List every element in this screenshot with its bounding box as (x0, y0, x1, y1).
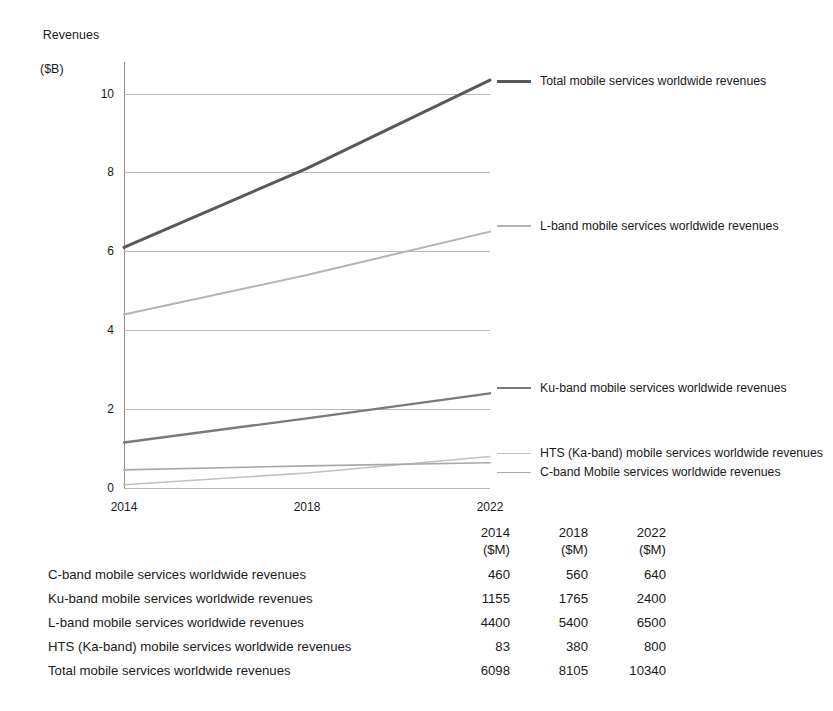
table-cell-value: 2400 (588, 587, 666, 611)
series-line (124, 232, 490, 315)
table-column-unit: ($M) (510, 541, 588, 558)
legend-swatch-icon (497, 453, 531, 454)
table-column-year: 2014 (481, 525, 510, 540)
x-axis-tick-label: 2022 (477, 500, 504, 514)
figure-caption (0, 699, 833, 711)
table-cell-value: 800 (588, 635, 666, 659)
legend-item: HTS (Ka-band) mobile services worldwide … (497, 446, 823, 460)
legend-label: Ku-band mobile services worldwide revenu… (540, 381, 787, 395)
y-axis-title: Revenues ($B) (22, 10, 99, 112)
chart-page: Revenues ($B) 0246810 201420182022 Total… (0, 0, 833, 711)
y-axis-tick-label: 0 (107, 481, 114, 495)
table-body: C-band mobile services worldwide revenue… (48, 563, 666, 683)
legend-swatch-icon (497, 225, 531, 227)
table-cell-value: 5400 (510, 611, 588, 635)
series-line (124, 456, 490, 484)
legend-item: L-band mobile services worldwide revenue… (497, 219, 779, 233)
table-column-header: 2018($M) (510, 524, 588, 563)
legend-swatch-icon (497, 80, 531, 83)
series-line (124, 80, 490, 247)
y-axis-tick-label: 10 (101, 87, 114, 101)
table-row-label: Total mobile services worldwide revenues (48, 659, 432, 683)
table-cell-value: 560 (510, 563, 588, 587)
table-row-label: Ku-band mobile services worldwide revenu… (48, 587, 432, 611)
table-row: Ku-band mobile services worldwide revenu… (48, 587, 666, 611)
y-axis-tick-label: 2 (107, 402, 114, 416)
line-chart: Revenues ($B) 0246810 201420182022 Total… (0, 0, 833, 515)
y-axis-tick-label: 8 (107, 165, 114, 179)
table-cell-value: 1765 (510, 587, 588, 611)
table-row: C-band mobile services worldwide revenue… (48, 563, 666, 587)
revenue-table: 2014($M)2018($M)2022($M) C-band mobile s… (48, 524, 666, 683)
table-column-year: 2022 (637, 525, 666, 540)
table-row: Total mobile services worldwide revenues… (48, 659, 666, 683)
table-column-unit: ($M) (432, 541, 510, 558)
legend-label: HTS (Ka-band) mobile services worldwide … (540, 446, 823, 460)
x-axis-tick-label: 2014 (111, 500, 138, 514)
table-row-label: HTS (Ka-band) mobile services worldwide … (48, 635, 432, 659)
gridline (124, 488, 490, 489)
table-cell-value: 640 (588, 563, 666, 587)
table-column-year: 2018 (559, 525, 588, 540)
table-cell-value: 380 (510, 635, 588, 659)
table-cell-value: 1155 (432, 587, 510, 611)
table-cell-value: 83 (432, 635, 510, 659)
y-axis-title-unit: ($B) (22, 61, 99, 78)
table-cell-value: 10340 (588, 659, 666, 683)
table-cell-value: 6500 (588, 611, 666, 635)
legend-swatch-icon (497, 472, 531, 473)
table-cell-value: 460 (432, 563, 510, 587)
x-axis-tick-label: 2018 (294, 500, 321, 514)
series-lines (124, 62, 490, 488)
y-axis-tick-label: 6 (107, 244, 114, 258)
y-axis-tick-label: 4 (107, 323, 114, 337)
legend-item: C-band Mobile services worldwide revenue… (497, 465, 781, 479)
table-column-unit: ($M) (588, 541, 666, 558)
series-line (124, 393, 490, 442)
table-cell-value: 8105 (510, 659, 588, 683)
legend-item: Ku-band mobile services worldwide revenu… (497, 381, 787, 395)
row-label-header (48, 524, 432, 563)
table-cell-value: 6098 (432, 659, 510, 683)
table-row-label: L-band mobile services worldwide revenue… (48, 611, 432, 635)
legend-label: C-band Mobile services worldwide revenue… (540, 465, 781, 479)
legend-item: Total mobile services worldwide revenues (497, 74, 766, 88)
legend-label: Total mobile services worldwide revenues (540, 74, 766, 88)
data-table-wrap: 2014($M)2018($M)2022($M) C-band mobile s… (0, 524, 833, 683)
legend-label: L-band mobile services worldwide revenue… (540, 219, 779, 233)
table-row-label: C-band mobile services worldwide revenue… (48, 563, 432, 587)
table-row: L-band mobile services worldwide revenue… (48, 611, 666, 635)
table-column-header: 2014($M) (432, 524, 510, 563)
legend-swatch-icon (497, 387, 531, 389)
y-axis-title-main: Revenues (43, 28, 99, 42)
table-row: HTS (Ka-band) mobile services worldwide … (48, 635, 666, 659)
table-header-row: 2014($M)2018($M)2022($M) (48, 524, 666, 563)
table-cell-value: 4400 (432, 611, 510, 635)
plot-area: 0246810 201420182022 (124, 62, 490, 488)
table-column-header: 2022($M) (588, 524, 666, 563)
series-line (124, 463, 490, 470)
